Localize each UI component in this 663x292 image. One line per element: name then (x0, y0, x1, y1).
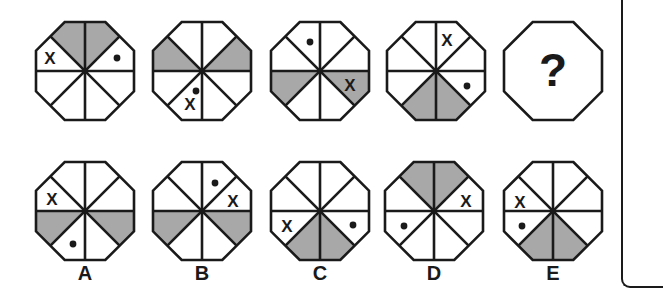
x-mark: X (281, 217, 293, 236)
center-point (432, 209, 437, 214)
x-mark: X (441, 31, 453, 50)
center-point (200, 209, 205, 214)
option-a[interactable]: XA (36, 162, 134, 284)
sequence-figure-3: X (271, 22, 369, 120)
dot-mark (70, 241, 77, 248)
center-point (83, 69, 88, 74)
sequence-figure-1: X (36, 22, 134, 120)
center-point (318, 69, 323, 74)
x-mark: X (184, 95, 196, 114)
option-label-a[interactable]: A (78, 262, 92, 284)
x-mark: X (227, 192, 239, 211)
center-point (318, 209, 323, 214)
option-b[interactable]: XB (153, 162, 251, 284)
dot-mark (519, 223, 526, 230)
x-mark: X (44, 49, 56, 68)
x-mark: X (460, 192, 472, 211)
dot-mark (464, 83, 471, 90)
option-label-d[interactable]: D (427, 262, 441, 284)
x-mark: X (344, 76, 356, 95)
option-label-c[interactable]: C (313, 262, 327, 284)
option-e[interactable]: XE (504, 162, 602, 284)
right-panel-border (621, 0, 663, 288)
dot-mark (193, 88, 200, 95)
question-mark: ? (539, 44, 567, 96)
dot-mark (401, 223, 408, 230)
option-label-e[interactable]: E (546, 262, 559, 284)
option-label-b[interactable]: B (195, 262, 209, 284)
sequence-figure-2: X (153, 22, 251, 120)
option-c[interactable]: XC (271, 162, 369, 284)
center-point (200, 69, 205, 74)
x-mark: X (514, 193, 526, 212)
dot-mark (114, 55, 121, 62)
dot-mark (350, 222, 357, 229)
sequence-figure-4: X (387, 22, 485, 120)
x-mark: X (46, 190, 58, 209)
dot-mark (307, 39, 314, 46)
center-point (83, 209, 88, 214)
dot-mark (212, 180, 219, 187)
option-d[interactable]: XD (385, 162, 483, 284)
center-point (551, 209, 556, 214)
center-point (434, 69, 439, 74)
question-figure: ? (504, 22, 602, 120)
